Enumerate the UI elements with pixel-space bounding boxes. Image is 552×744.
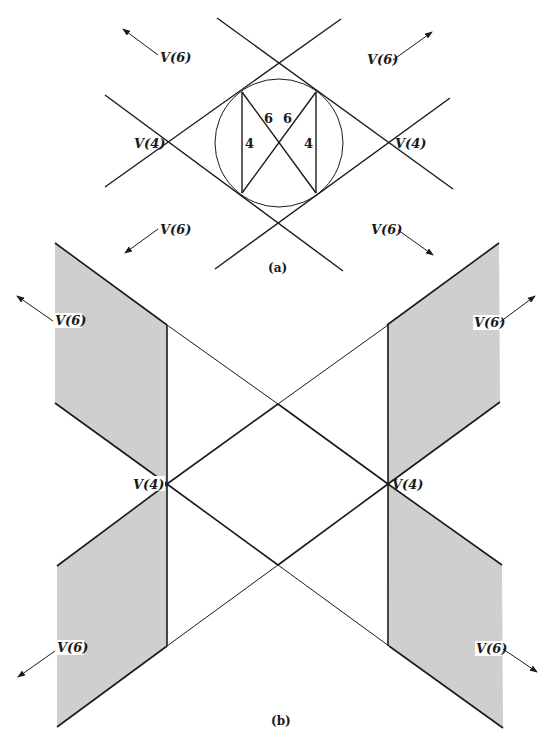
caption-b: (b) — [271, 714, 291, 728]
arrow-a-bottom-left — [125, 229, 158, 253]
shaded-region-top-left — [55, 243, 167, 484]
arrow-b-bottom-left — [18, 651, 55, 677]
vertex-label-a-left: V(4) — [134, 136, 165, 151]
region-label-b-bottom-left: V(6) — [57, 640, 88, 655]
inner-lower-thick-1 — [167, 484, 278, 565]
inner-upper-thin-1 — [167, 325, 278, 404]
inner-upper-thick-2 — [167, 404, 278, 484]
region-label-b-top-right: V(6) — [474, 315, 505, 330]
inner-lower-thin-2 — [167, 565, 278, 646]
arrow-b-bottom-right — [503, 649, 537, 672]
region-label-b-bottom-right: V(6) — [476, 641, 507, 656]
arrow-a-top-left — [123, 29, 158, 55]
shaded-region-bottom-right — [388, 484, 503, 728]
line-a-l-b — [105, 95, 343, 271]
inner-label-diag-right-6: 6 — [283, 111, 292, 126]
inner-upper-thin-2 — [278, 325, 388, 404]
figure-b: V(4) V(4) V(6) V(6) V(6) V(6) (b) — [17, 243, 537, 728]
line-a-r-b — [215, 98, 450, 269]
arrow-b-top-left — [17, 296, 53, 321]
arrow-a-bottom-right — [398, 230, 433, 255]
shaded-region-bottom-left — [57, 484, 167, 727]
inner-lower-thin-1 — [278, 565, 389, 646]
shaded-region-top-right — [387, 243, 500, 484]
vertex-label-b-right: V(4) — [392, 477, 423, 492]
inner-label-left-4: 4 — [245, 136, 254, 151]
figure-canvas: 4 4 6 6 V(4) V(4) V(6) V(6) V(6) V(6) (a… — [0, 0, 552, 744]
figure-a: 4 4 6 6 V(4) V(4) V(6) V(6) V(6) V(6) (a… — [105, 18, 453, 275]
arrow-a-top-right — [393, 32, 432, 60]
vertex-label-a-right: V(4) — [395, 136, 426, 151]
region-label-a-bottom-right: V(6) — [371, 222, 402, 237]
region-label-a-bottom-left: V(6) — [160, 222, 191, 237]
inner-label-right-4: 4 — [304, 136, 313, 151]
line-a-tr-bl — [105, 19, 341, 187]
caption-a: (a) — [268, 261, 287, 275]
inner-lower-thick-2 — [278, 484, 388, 565]
inner-upper-thick-1 — [278, 404, 388, 484]
line-a-tl-br — [217, 18, 453, 189]
region-label-a-top-left: V(6) — [160, 50, 191, 65]
vertex-label-b-left: V(4) — [133, 477, 164, 492]
region-label-b-top-left: V(6) — [55, 313, 86, 328]
region-label-a-top-right: V(6) — [367, 52, 398, 67]
inner-label-diag-left-6: 6 — [264, 111, 273, 126]
